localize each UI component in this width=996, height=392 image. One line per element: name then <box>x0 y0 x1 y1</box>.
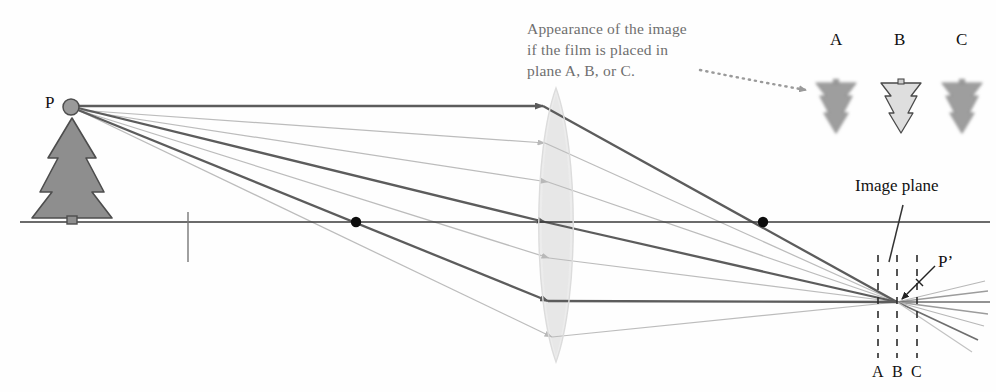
focal-point-right <box>758 217 768 227</box>
preview-label-B: B <box>894 30 905 50</box>
preview-image-B <box>881 79 921 133</box>
annotation-line-3: plane A, B, or C. <box>527 60 635 81</box>
figure-canvas: Appearance of the image if the film is p… <box>0 0 996 392</box>
film-plane-label-A: A <box>872 363 884 381</box>
focal-point-left <box>351 217 361 227</box>
dark-ray-mid-out <box>545 222 897 302</box>
annotation-pointer-arrow <box>700 70 806 90</box>
object-point-label: P <box>45 93 54 113</box>
light-ray-5b <box>549 258 897 302</box>
light-ray-7a <box>78 110 552 337</box>
div-ray-7 <box>897 302 972 352</box>
object-point-dot <box>63 99 79 115</box>
preview-image-A <box>816 80 856 134</box>
dark-ray-low-out <box>548 301 897 302</box>
optical-axis <box>20 212 990 262</box>
image-plane-label: Image plane <box>855 176 939 196</box>
preview-label-A: A <box>830 30 842 50</box>
div-ray-2 <box>897 291 988 302</box>
film-plane-label-B: B <box>892 363 903 381</box>
light-ray-3a <box>78 110 548 182</box>
ray-diagram-svg <box>0 0 996 392</box>
light-ray-7b <box>552 302 897 337</box>
preview-image-C <box>942 80 982 134</box>
image-point-label: P’ <box>938 252 953 272</box>
annotation-line-2: if the film is placed in <box>527 39 668 60</box>
dark-ray-group <box>78 106 897 302</box>
post-image-divergence <box>897 281 990 352</box>
film-plane-label-C: C <box>911 363 922 381</box>
dark-ray-top-out <box>543 106 897 302</box>
light-ray-3b <box>548 182 897 302</box>
annotation-line-1: Appearance of the image <box>527 18 687 39</box>
light-ray-group <box>78 110 897 337</box>
light-ray-5a <box>78 110 549 258</box>
tree-trunk <box>67 216 77 224</box>
image-plane-leader <box>889 205 903 262</box>
preview-label-C: C <box>956 30 967 50</box>
